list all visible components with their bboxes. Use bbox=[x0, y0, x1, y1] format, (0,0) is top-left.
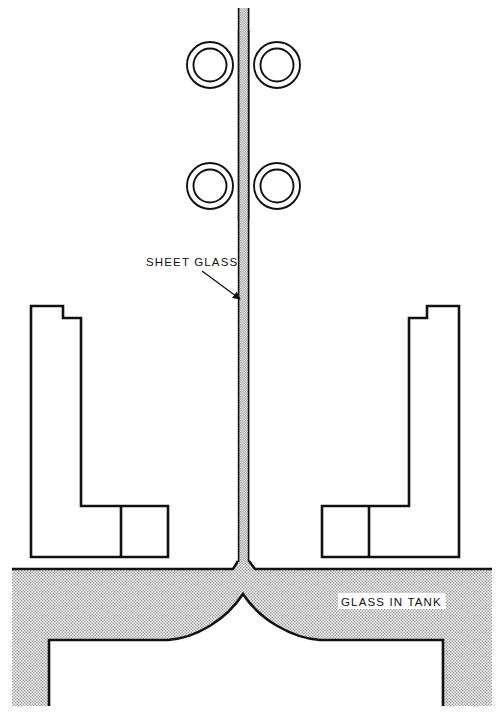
diagram-root: SHEET GLASS GLASS IN TANK bbox=[0, 0, 503, 715]
sheet-glass-label: SHEET GLASS bbox=[146, 256, 238, 268]
glass-in-tank-label: GLASS IN TANK bbox=[341, 596, 442, 608]
roller-inner-ring bbox=[261, 49, 294, 82]
roller-inner-ring bbox=[194, 49, 227, 82]
sheet-glass-process-diagram: SHEET GLASS GLASS IN TANK bbox=[0, 0, 503, 715]
roller-lower-left bbox=[187, 163, 233, 209]
glass-in-tank-callout: GLASS IN TANK bbox=[338, 593, 446, 609]
roller-upper-left bbox=[187, 42, 233, 88]
roller-inner-ring bbox=[261, 170, 294, 203]
roller-inner-ring bbox=[194, 170, 227, 203]
roller-upper-right bbox=[254, 42, 300, 88]
roller-lower-right bbox=[254, 163, 300, 209]
ribbon-over-rollers-mask bbox=[238, 30, 249, 220]
